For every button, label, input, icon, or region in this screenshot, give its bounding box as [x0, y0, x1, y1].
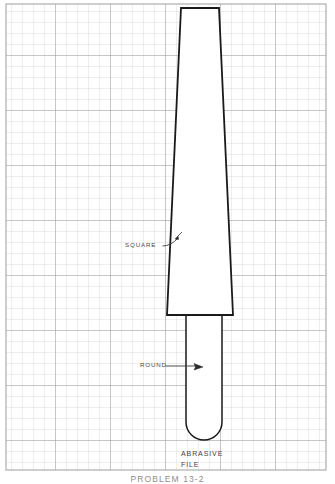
- title-line-1: ABRASIVE: [181, 448, 223, 459]
- title-line-2: FILE: [181, 459, 223, 470]
- round-annotation-label: ROUND: [140, 362, 167, 368]
- square-annotation-label: SQUARE: [125, 242, 156, 248]
- drawing-sheet: SQUARE ROUND ABRASIVE FILE PROBLEM 13-2: [0, 0, 335, 484]
- graph-paper-grid: [6, 4, 326, 470]
- title-block: ABRASIVE FILE: [181, 448, 223, 470]
- problem-caption: PROBLEM 13-2: [0, 474, 335, 484]
- technical-drawing-canvas: [0, 0, 335, 484]
- round-tang-shape: [186, 312, 222, 440]
